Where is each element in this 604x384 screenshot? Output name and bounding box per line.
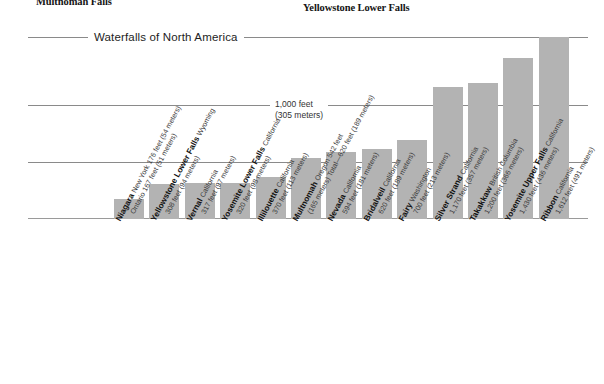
bar-series [0, 0, 604, 219]
x-axis-labels: Niagara New York 176 feet (54 meters)Ont… [0, 219, 604, 369]
